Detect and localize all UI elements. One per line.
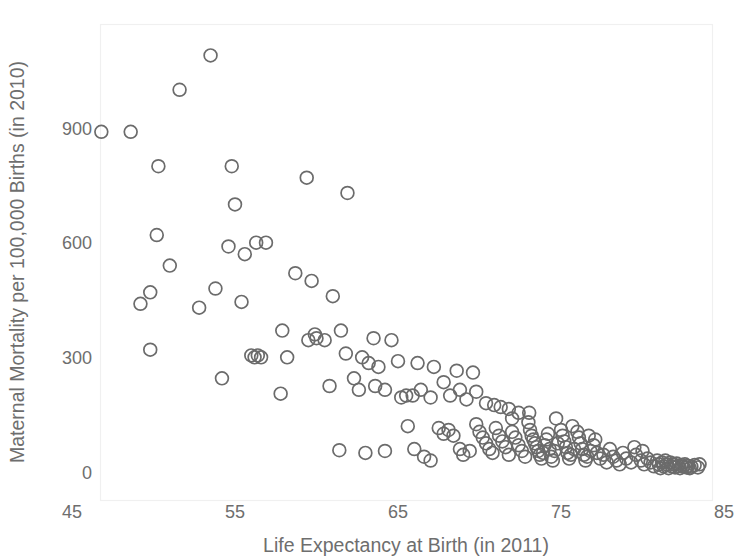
y-tick-label: 300 (62, 348, 92, 368)
y-tick-label: 0 (82, 463, 92, 483)
y-tick-label: 900 (62, 119, 92, 139)
y-axis-title: Maternal Mortality per 100,000 Births (i… (6, 61, 28, 463)
x-axis-title: Life Expectancy at Birth (in 2011) (263, 534, 549, 556)
x-tick-label: 45 (62, 502, 82, 522)
x-tick-label: 75 (551, 502, 571, 522)
scatter-chart: 4555657585 0300600900 Life Expectancy at… (0, 0, 748, 559)
x-tick-label: 65 (388, 502, 408, 522)
plot-canvas: 4555657585 0300600900 Life Expectancy at… (0, 0, 748, 559)
chart-background (0, 0, 748, 559)
y-tick-label: 600 (62, 233, 92, 253)
x-tick-label: 85 (714, 502, 734, 522)
x-tick-label: 55 (225, 502, 245, 522)
